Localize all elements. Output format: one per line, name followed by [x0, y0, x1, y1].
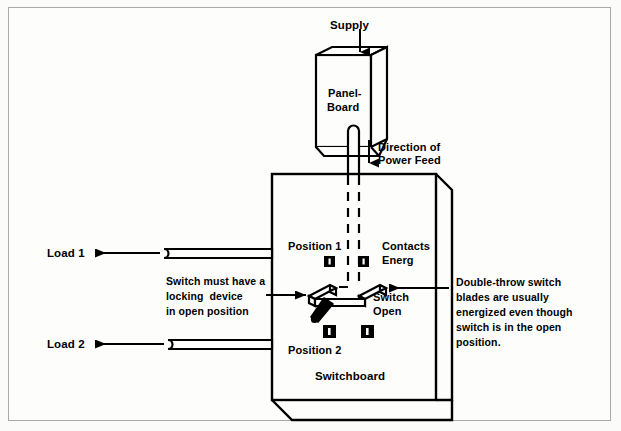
contact-terminal-lower-right	[361, 325, 374, 338]
contact-terminal-upper-left	[324, 256, 335, 267]
position-1-label: Position 1	[288, 239, 342, 254]
contact-terminal-lower-left	[323, 325, 336, 338]
technical-diagram	[0, 0, 621, 431]
contacts-label-line2: Energ	[382, 253, 414, 268]
switchboard-label: Switchboard	[315, 369, 385, 384]
right-note-line3: energized even though	[456, 305, 572, 320]
panel-board-label-line2: Board	[327, 100, 359, 115]
left-note-line2: locking device	[166, 289, 243, 304]
switch-open-label-line2: Open	[373, 304, 402, 319]
right-note-line2: blades are usually	[456, 290, 549, 305]
load-1-label: Load 1	[47, 246, 85, 261]
contact-terminal-upper-right	[358, 256, 369, 267]
load-2-label: Load 2	[47, 337, 85, 352]
left-note-line3: in open position	[166, 304, 249, 319]
right-note-line1: Double-throw switch	[456, 275, 561, 290]
panel-board-label-line1: Panel-	[328, 86, 362, 101]
right-note-line5: position.	[456, 335, 501, 350]
load-2-conduit	[168, 340, 272, 349]
switch-open-label-line1: Switch	[373, 290, 409, 305]
contacts-label-line1: Contacts	[382, 239, 430, 254]
left-note-line1: Switch must have a	[166, 274, 265, 289]
diagram-page: Supply Panel- Board Direction of Power F…	[0, 0, 621, 431]
position-2-label: Position 2	[288, 343, 342, 358]
power-feed-label-line2: Power Feed	[378, 153, 441, 168]
supply-label: Supply	[330, 18, 369, 33]
right-note-line4: switch is in the open	[456, 320, 561, 335]
load-1-conduit	[164, 249, 272, 258]
